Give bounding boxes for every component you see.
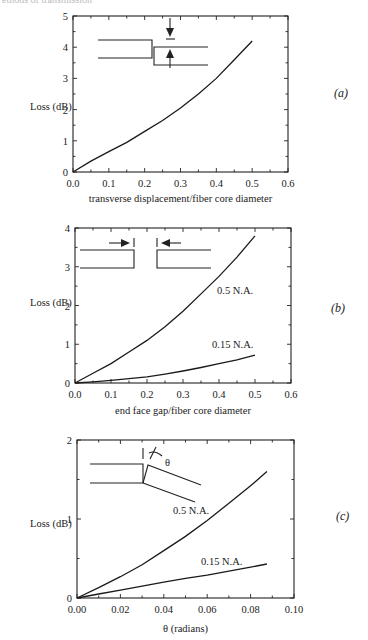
x-tick-label: 0.0	[68, 389, 81, 400]
angle-arc	[149, 452, 162, 456]
series-line	[77, 564, 267, 598]
x-tick-label: 0.06	[198, 604, 216, 615]
arrow-down-icon	[166, 28, 174, 37]
series-line	[73, 41, 252, 172]
x-tick-label: 0.04	[155, 604, 174, 615]
y-tick-label: 1	[65, 339, 70, 350]
x-tick-label: 0.6	[284, 389, 297, 400]
x-axis-label: transverse displacement/fiber core diame…	[89, 193, 273, 204]
x-axis-label: end face gap/fiber core diameter	[115, 405, 251, 416]
end-gap-diagram	[80, 238, 211, 268]
y-tick-label: 0	[67, 593, 72, 604]
chart-panel-c: 0.000.020.040.060.080.10012θ (radians)Lo…	[30, 435, 303, 635]
x-tick-label: 0.6	[281, 178, 294, 189]
x-tick-label: 0.2	[138, 178, 151, 189]
series-line	[77, 472, 267, 598]
fiber-tilted-bottom	[143, 483, 195, 502]
x-tick-label: 0.4	[210, 178, 224, 189]
x-tick-label: 0.0	[66, 178, 79, 189]
plot-frame	[75, 228, 291, 383]
fiber-left	[90, 464, 143, 483]
y-tick-label: 0	[65, 378, 70, 389]
panel-label-a: (a)	[334, 86, 348, 101]
chart-panel-b: 0.00.10.20.30.40.50.601234end face gap/f…	[30, 223, 298, 416]
chart-panel-a: 0.00.10.20.30.40.50.6012345transverse di…	[30, 11, 295, 204]
arrow-right-icon	[121, 239, 130, 247]
y-tick-label: 5	[63, 11, 68, 22]
angle-tick	[150, 447, 156, 459]
theta-symbol: θ	[165, 457, 170, 468]
series-label: 0.5 N.A.	[173, 505, 209, 516]
x-tick-label: 0.02	[111, 604, 129, 615]
x-tick-label: 0.1	[104, 389, 117, 400]
fiber-left	[98, 40, 152, 58]
x-tick-label: 0.00	[68, 604, 86, 615]
panel-label-c: (c)	[336, 509, 349, 524]
fiber-right	[157, 250, 211, 268]
y-axis-label: Loss (dB)	[30, 297, 72, 309]
x-tick-label: 0.5	[248, 389, 261, 400]
y-axis-label: Loss (dB)	[30, 518, 72, 530]
fiber-right	[154, 47, 208, 65]
x-tick-label: 0.3	[176, 389, 189, 400]
y-tick-label: 1	[63, 136, 68, 147]
y-tick-label: 4	[63, 42, 69, 53]
y-tick-label: 3	[63, 73, 68, 84]
y-tick-label: 0	[63, 167, 68, 178]
x-tick-label: 0.10	[285, 604, 303, 615]
series-label: 0.5 N.A.	[217, 285, 253, 296]
panel-label-b: (b)	[331, 301, 345, 316]
x-tick-label: 0.4	[212, 389, 226, 400]
x-tick-label: 0.3	[174, 178, 187, 189]
fiber-left	[80, 250, 134, 268]
x-axis-label: θ (radians)	[163, 623, 208, 635]
plot-frame	[73, 16, 288, 172]
arrow-up-icon	[166, 49, 174, 58]
y-tick-label: 3	[65, 262, 70, 273]
fiber-tilted-top	[143, 465, 201, 485]
x-tick-label: 0.1	[102, 178, 115, 189]
x-tick-label: 0.2	[140, 389, 153, 400]
x-tick-label: 0.5	[246, 178, 259, 189]
angular-misalignment-diagram: θ	[90, 447, 201, 502]
figure: 0.00.10.20.30.40.50.6012345transverse di…	[0, 0, 368, 640]
series-label: 0.15 N.A.	[212, 339, 253, 350]
lateral-offset-diagram	[98, 18, 208, 68]
y-tick-label: 2	[67, 435, 72, 446]
series-line	[75, 236, 255, 383]
series-label: 0.15 N.A.	[201, 556, 242, 567]
arrow-left-icon	[161, 239, 170, 247]
x-tick-label: 0.08	[241, 604, 259, 615]
y-tick-label: 4	[65, 223, 71, 234]
y-axis-label: Loss (dB)	[30, 101, 72, 113]
